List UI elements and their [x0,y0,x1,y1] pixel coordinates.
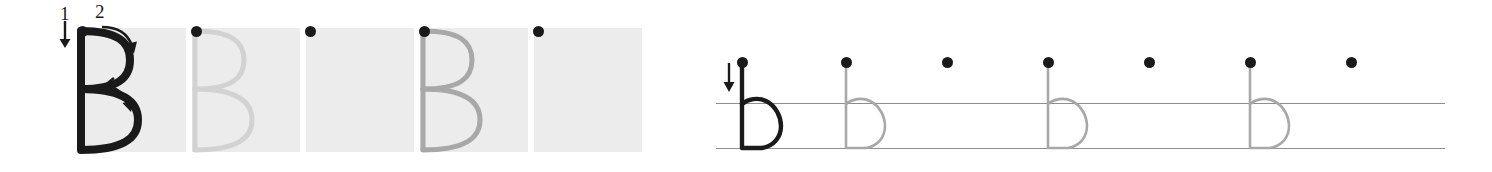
stroke-arrow-curved-icon-2b [100,76,140,116]
lowercase-b-trace-svg-4 [1022,0,1122,172]
lowercase-practice-row [700,0,1492,172]
letter-glyph-lowercase-1 [716,0,816,172]
start-dot-lowercase-1 [737,57,748,68]
lowercase-slot-3[interactable] [921,0,1021,172]
letter-glyph-lowercase-2 [820,0,920,172]
stroke-arrow-curved-icon-2a [100,24,142,60]
letter-glyph-lowercase-6 [1224,0,1324,172]
start-dot-uppercase-4 [419,26,430,37]
lowercase-b-trace-svg-2 [820,0,920,172]
start-dot-uppercase-1 [77,26,88,37]
practice-box-3[interactable] [306,28,414,152]
lowercase-slot-5[interactable] [1123,0,1223,172]
start-dot-lowercase-3 [942,57,953,68]
lowercase-slot-6[interactable] [1224,0,1324,172]
letter-glyph-lowercase-4 [1022,0,1122,172]
lowercase-slot-1[interactable] [716,0,816,172]
lowercase-b-trace-svg-6 [1224,0,1324,172]
start-dot-uppercase-2 [191,26,202,37]
start-dot-lowercase-6 [1245,57,1256,68]
stroke-arrow-down-icon-1 [54,20,76,50]
practice-box-5[interactable] [534,28,642,152]
start-dot-uppercase-5 [533,26,544,37]
letter-glyph-lowercase-3 [921,0,1021,172]
stroke-number-2: 2 [95,2,105,21]
practice-box-2[interactable] [192,28,300,152]
start-dot-lowercase-4 [1043,57,1054,68]
uppercase-b-trace-svg-4 [414,24,544,156]
letter-glyph-uppercase-5 [528,24,658,156]
worksheet-canvas: 1 2 [0,0,1492,172]
letter-glyph-uppercase-3 [300,24,430,156]
practice-box-4[interactable] [420,28,528,152]
lowercase-slot-4[interactable] [1022,0,1122,172]
start-dot-lowercase-7 [1346,57,1357,68]
letter-glyph-uppercase-2 [186,24,316,156]
start-dot-uppercase-3 [305,26,316,37]
uppercase-b-trace-svg-2 [186,24,316,156]
letter-glyph-lowercase-7 [1325,0,1425,172]
uppercase-practice-row: 1 2 [0,0,700,172]
lowercase-b-model-svg [716,0,816,172]
start-dot-lowercase-5 [1144,57,1155,68]
letter-glyph-lowercase-5 [1123,0,1223,172]
start-dot-lowercase-2 [841,57,852,68]
lowercase-slot-7[interactable] [1325,0,1425,172]
lowercase-slot-2[interactable] [820,0,920,172]
letter-glyph-uppercase-4 [414,24,544,156]
